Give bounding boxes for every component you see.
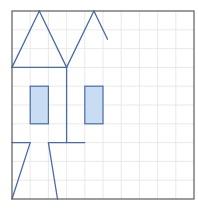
left-roof-right-edge (39, 11, 66, 67)
left-roof-left-edge (12, 11, 39, 67)
left-leg (12, 143, 30, 199)
window-left (30, 86, 48, 124)
right-leg (48, 143, 57, 199)
right-roof-left-edge (67, 11, 94, 67)
window-right (85, 86, 103, 124)
house-grid-diagram (0, 0, 198, 212)
right-roof-right-edge (94, 11, 108, 39)
